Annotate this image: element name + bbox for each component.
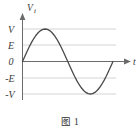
y-axis-label: V: [27, 3, 34, 13]
figure-caption: 图 1: [0, 110, 140, 131]
y-tick-label-E: E: [7, 40, 14, 51]
y-tick-label-neg-E: -E: [5, 73, 14, 84]
figure-container: V i t V E 0 -E -V 图 1: [0, 0, 140, 131]
y-tick-label-V: V: [8, 24, 16, 35]
y-tick-label-neg-V: -V: [5, 89, 16, 100]
sine-wave-plot: V i t V E 0 -E -V: [0, 0, 140, 110]
x-axis-label: t: [133, 57, 136, 67]
y-axis-sublabel: i: [34, 7, 36, 14]
y-tick-label-zero: 0: [9, 56, 14, 67]
x-axis: [22, 59, 131, 65]
figure-caption-text: 图 1: [61, 114, 80, 128]
